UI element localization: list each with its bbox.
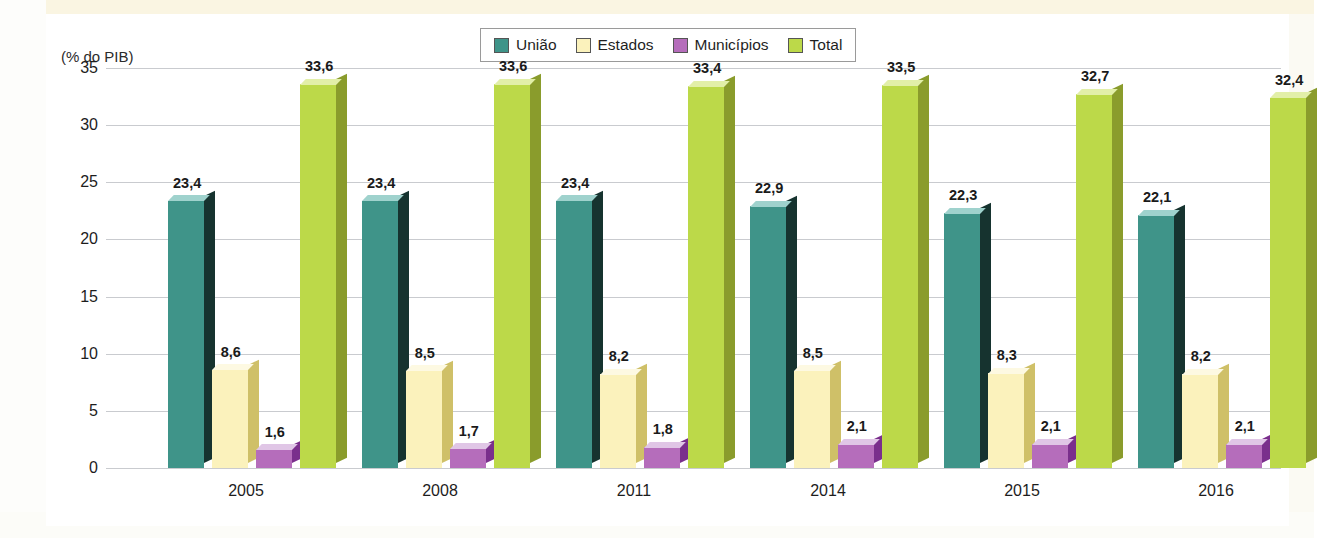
bar-unio-2015[interactable]: 22,3 bbox=[944, 213, 980, 468]
bar-group: 23,48,51,733,6 bbox=[362, 68, 538, 468]
bar-front-face bbox=[944, 213, 980, 468]
bar-top-face bbox=[300, 79, 342, 85]
y-axis-tick-label: 15 bbox=[52, 288, 98, 306]
bar-municpios-2014[interactable]: 2,1 bbox=[838, 444, 874, 468]
bar-value-label: 22,9 bbox=[755, 180, 783, 196]
bar-front-face bbox=[1182, 374, 1218, 468]
bar-municpios-2016[interactable]: 2,1 bbox=[1226, 444, 1262, 468]
bar-value-label: 8,5 bbox=[803, 345, 823, 361]
bar-front-face bbox=[838, 444, 874, 468]
bar-group: 23,48,61,633,6 bbox=[168, 68, 344, 468]
y-axis-tick-label: 5 bbox=[52, 402, 98, 420]
plot-area: 0510152025303523,48,61,633,6200523,48,51… bbox=[106, 68, 1281, 468]
bar-estados-2011[interactable]: 8,2 bbox=[600, 374, 636, 468]
bar-value-label: 8,2 bbox=[609, 348, 629, 364]
bar-municpios-2015[interactable]: 2,1 bbox=[1032, 444, 1068, 468]
bar-value-label: 23,4 bbox=[173, 175, 201, 191]
legend-item-label: Estados bbox=[598, 36, 654, 54]
bar-front-face bbox=[1076, 94, 1112, 468]
bar-unio-2016[interactable]: 22,1 bbox=[1138, 215, 1174, 468]
bar-front-face bbox=[882, 85, 918, 468]
bar-front-face bbox=[450, 449, 486, 468]
legend-item-label: Total bbox=[810, 36, 843, 54]
bar-estados-2008[interactable]: 8,5 bbox=[406, 371, 442, 468]
legend-item-label: Municípios bbox=[695, 36, 769, 54]
bar-top-face bbox=[494, 79, 536, 85]
bar-top-face bbox=[1076, 89, 1118, 95]
y-axis-tick-label: 25 bbox=[52, 173, 98, 191]
bar-total-2011[interactable]: 33,4 bbox=[688, 86, 724, 468]
bar-value-label: 23,4 bbox=[367, 175, 395, 191]
bar-chart: (% do PIB) UniãoEstadosMunicípiosTotal 0… bbox=[46, 14, 1289, 526]
x-axis-tick-label: 2005 bbox=[158, 482, 334, 500]
bar-group: 23,48,21,833,4 bbox=[556, 68, 732, 468]
x-axis-tick-label: 2014 bbox=[740, 482, 916, 500]
bar-estados-2005[interactable]: 8,6 bbox=[212, 370, 248, 468]
bar-side-face bbox=[1112, 84, 1123, 463]
bar-front-face bbox=[688, 86, 724, 468]
legend-swatch-icon bbox=[788, 38, 803, 53]
bar-estados-2015[interactable]: 8,3 bbox=[988, 373, 1024, 468]
legend-swatch-icon bbox=[576, 38, 591, 53]
bar-value-label: 2,1 bbox=[847, 418, 867, 434]
chart-legend: UniãoEstadosMunicípiosTotal bbox=[480, 28, 856, 62]
bar-front-face bbox=[1138, 215, 1174, 468]
legend-item-estados[interactable]: Estados bbox=[576, 36, 654, 54]
bar-top-face bbox=[750, 201, 792, 207]
bar-municpios-2008[interactable]: 1,7 bbox=[450, 449, 486, 468]
legend-swatch-icon bbox=[494, 38, 509, 53]
bar-municpios-2005[interactable]: 1,6 bbox=[256, 450, 292, 468]
x-axis-tick-label: 2016 bbox=[1128, 482, 1304, 500]
bar-front-face bbox=[556, 201, 592, 468]
bar-value-label: 23,4 bbox=[561, 175, 589, 191]
bar-value-label: 1,6 bbox=[265, 424, 285, 440]
bar-front-face bbox=[794, 371, 830, 468]
bar-total-2005[interactable]: 33,6 bbox=[300, 84, 336, 468]
bar-estados-2014[interactable]: 8,5 bbox=[794, 371, 830, 468]
bar-front-face bbox=[212, 370, 248, 468]
bar-side-face bbox=[336, 74, 347, 463]
bar-total-2015[interactable]: 32,7 bbox=[1076, 94, 1112, 468]
bar-unio-2014[interactable]: 22,9 bbox=[750, 206, 786, 468]
bar-value-label: 33,5 bbox=[887, 59, 915, 75]
y-axis-tick-label: 20 bbox=[52, 230, 98, 248]
bar-value-label: 22,3 bbox=[949, 187, 977, 203]
bar-front-face bbox=[644, 447, 680, 468]
bar-total-2016[interactable]: 32,4 bbox=[1270, 98, 1306, 468]
gridline bbox=[106, 468, 1281, 469]
bar-value-label: 1,8 bbox=[653, 421, 673, 437]
bar-side-face bbox=[1306, 87, 1317, 463]
bar-top-face bbox=[1226, 439, 1268, 445]
bar-value-label: 33,6 bbox=[499, 58, 527, 74]
bar-group: 22,98,52,133,5 bbox=[750, 68, 926, 468]
legend-item-total[interactable]: Total bbox=[788, 36, 843, 54]
legend-item-municpios[interactable]: Municípios bbox=[673, 36, 769, 54]
bar-municpios-2011[interactable]: 1,8 bbox=[644, 447, 680, 468]
bar-top-face bbox=[794, 365, 836, 371]
bar-top-face bbox=[688, 81, 730, 87]
bar-unio-2011[interactable]: 23,4 bbox=[556, 201, 592, 468]
image-credit: Gráficos: Ericson Guilherme Luciano/Arqu… bbox=[5, 0, 27, 22]
bar-top-face bbox=[256, 444, 298, 450]
bar-value-label: 32,7 bbox=[1081, 68, 1109, 84]
bar-top-face bbox=[988, 368, 1030, 374]
bar-side-face bbox=[724, 76, 735, 463]
legend-item-unio[interactable]: União bbox=[494, 36, 557, 54]
bar-unio-2008[interactable]: 23,4 bbox=[362, 201, 398, 468]
bar-top-face bbox=[600, 369, 642, 375]
bar-value-label: 2,1 bbox=[1235, 418, 1255, 434]
bar-total-2014[interactable]: 33,5 bbox=[882, 85, 918, 468]
bar-top-face bbox=[362, 195, 404, 201]
bar-total-2008[interactable]: 33,6 bbox=[494, 84, 530, 468]
bar-top-face bbox=[406, 365, 448, 371]
page-top-margin bbox=[0, 0, 1314, 14]
bar-unio-2005[interactable]: 23,4 bbox=[168, 201, 204, 468]
bar-estados-2016[interactable]: 8,2 bbox=[1182, 374, 1218, 468]
bar-side-face bbox=[530, 74, 541, 463]
bar-top-face bbox=[450, 443, 492, 449]
bar-front-face bbox=[168, 201, 204, 468]
x-axis-tick-label: 2008 bbox=[352, 482, 528, 500]
bar-front-face bbox=[256, 450, 292, 468]
bar-front-face bbox=[988, 373, 1024, 468]
